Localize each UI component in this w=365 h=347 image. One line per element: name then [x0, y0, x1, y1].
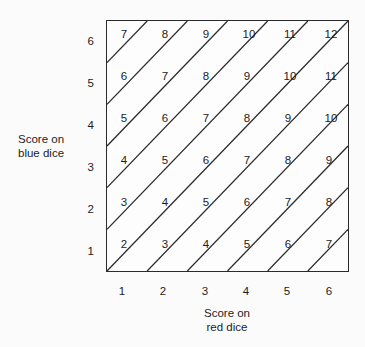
cell-value: 2 [121, 239, 128, 251]
cell-value: 9 [326, 155, 333, 167]
x-axis-title: Score on red dice [182, 307, 272, 334]
y-tick-label-4: 4 [76, 119, 94, 131]
cell-value: 8 [244, 113, 251, 125]
cell-value: 7 [162, 71, 169, 83]
cell-value: 3 [121, 197, 128, 209]
cell-value: 5 [162, 155, 169, 167]
y-tick-label-1: 1 [76, 245, 94, 257]
cell-value: 9 [285, 113, 292, 125]
cell-value: 8 [326, 197, 333, 209]
cell-value: 8 [162, 29, 169, 41]
cell-value: 11 [325, 71, 337, 83]
cell-value: 7 [244, 155, 251, 167]
cell-value: 4 [203, 239, 210, 251]
x-axis-title-line-1: Score on [182, 307, 272, 321]
cell-value: 5 [121, 113, 128, 125]
cell-value: 10 [243, 29, 256, 41]
x-tick-label-2: 2 [160, 285, 166, 297]
cell-value: 4 [162, 197, 169, 209]
cell-value: 6 [203, 155, 210, 167]
x-tick-label-6: 6 [326, 285, 332, 297]
diagonal-lines-group [107, 21, 348, 271]
cell-value: 8 [203, 71, 210, 83]
cell-value: 6 [285, 239, 292, 251]
cell-value: 7 [203, 113, 210, 125]
diagonal-line-total-9 [187, 104, 348, 271]
y-tick-label-2: 2 [76, 203, 94, 215]
cell-value: 11 [284, 29, 296, 41]
cell-value: 8 [285, 155, 292, 167]
x-tick-label-3: 3 [202, 285, 208, 297]
y-axis-title-line-2: blue dice [18, 147, 64, 161]
y-axis-title: Score on blue dice [18, 133, 64, 160]
y-axis-title-line-1: Score on [18, 133, 64, 147]
cell-value: 10 [325, 113, 338, 125]
dice-sum-grid-figure: 7 8 9 10 11 12 6 7 8 9 10 11 5 6 7 8 9 1… [0, 0, 365, 347]
cell-value: 6 [162, 113, 169, 125]
x-tick-label-4: 4 [243, 285, 249, 297]
cell-value: 6 [244, 197, 251, 209]
y-tick-label-5: 5 [76, 77, 94, 89]
cell-value: 9 [203, 29, 210, 41]
y-tick-label-3: 3 [76, 161, 94, 173]
diagonal-line-total-11 [268, 188, 348, 271]
cell-value: 4 [121, 155, 128, 167]
x-tick-label-1: 1 [119, 285, 125, 297]
cell-value: 7 [326, 239, 333, 251]
cell-value: 10 [284, 71, 297, 83]
cell-value: 12 [325, 29, 338, 41]
cell-value: 7 [121, 29, 128, 41]
cell-value: 5 [244, 239, 251, 251]
cell-value: 7 [285, 197, 292, 209]
cell-value: 6 [121, 71, 128, 83]
x-tick-label-5: 5 [284, 285, 290, 297]
plot-area: 7 8 9 10 11 12 6 7 8 9 10 11 5 6 7 8 9 1… [106, 20, 349, 272]
cell-value: 5 [203, 197, 210, 209]
diagonal-line-total-6 [107, 21, 187, 104]
cell-value: 3 [162, 239, 169, 251]
y-tick-label-6: 6 [76, 35, 94, 47]
cell-value: 9 [244, 71, 251, 83]
x-axis-title-line-2: red dice [182, 321, 272, 335]
diagonal-line-total-7 [107, 21, 147, 63]
diagonal-line-total-2 [107, 21, 348, 271]
